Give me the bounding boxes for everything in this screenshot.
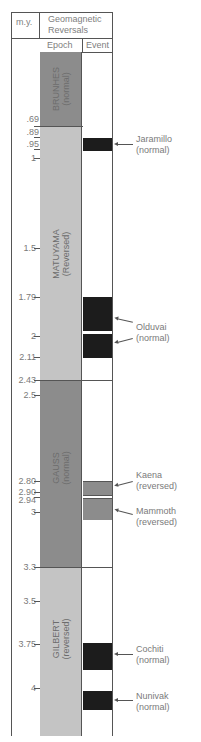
event-label-mammoth: Mammoth(reversed) (136, 506, 177, 528)
arrow-icon (117, 338, 133, 343)
epoch-name: BRUNHES (51, 67, 61, 111)
event-olduvai-upper (83, 297, 112, 331)
tick-mark (34, 248, 40, 249)
arrow-icon (117, 318, 133, 322)
arrow-icon (117, 481, 133, 486)
epoch-polarity: (reversed) (61, 618, 71, 659)
tick-mark (34, 158, 40, 159)
tick-mark (34, 126, 40, 127)
tick-label: .69 (26, 114, 39, 124)
arrow-icon (117, 700, 133, 701)
epoch-name: MATUYAMA (51, 229, 61, 279)
epoch-column-header: Epoch (47, 40, 73, 51)
tick-mark (34, 481, 40, 482)
tick-mark (34, 644, 40, 645)
my-column-divider-header (39, 12, 40, 39)
arrow-icon (117, 144, 133, 145)
epoch-name: GILBERT (51, 619, 61, 657)
epoch-gauss: GAUSS(normal) (40, 381, 82, 567)
tick-mark (34, 137, 40, 138)
event-column-header: Event (86, 40, 109, 51)
epoch-name: GAUSS (51, 453, 61, 485)
header-divider (11, 38, 113, 39)
event-label-olduvai: Olduvai(normal) (136, 322, 170, 344)
event-cochiti (83, 643, 112, 670)
epoch-matuyama: MATUYAMA(Reversed) (40, 127, 82, 380)
tick-mark (34, 149, 40, 150)
event-label-kaena: Kaena(reversed) (136, 470, 177, 492)
tick-mark (34, 567, 40, 568)
event-mammoth (83, 498, 112, 520)
epoch-polarity: (normal) (61, 72, 71, 106)
my-column-header: m.y. (16, 17, 32, 28)
title-line2: Reversals (48, 25, 88, 36)
epoch-polarity: (normal) (61, 452, 71, 486)
tick-mark (34, 357, 40, 358)
event-label-cochiti: Cochiti(normal) (136, 644, 170, 666)
epoch-gilbert: GILBERT(reversed) (40, 568, 82, 736)
tick-mark (34, 512, 40, 513)
event-nunivak (83, 691, 112, 710)
epoch-polarity: (Reversed) (61, 231, 71, 276)
tick-label: .89 (26, 127, 39, 137)
tick-mark (34, 492, 40, 493)
arrow-icon (117, 510, 133, 515)
epoch-event-divider-header (82, 38, 83, 52)
tick-mark (34, 297, 40, 298)
tick-mark (34, 688, 40, 689)
tick-mark (34, 497, 40, 498)
epoch-brunhes: BRUNHES(normal) (40, 52, 82, 126)
event-kaena (83, 481, 112, 496)
tick-mark (34, 336, 40, 337)
event-jaramillo (83, 138, 112, 151)
title-line1: Geomagnetic (48, 14, 102, 25)
event-olduvai-lower (83, 334, 112, 358)
tick-mark (34, 395, 40, 396)
arrow-icon (117, 654, 133, 655)
tick-mark (34, 601, 40, 602)
tick-mark (34, 380, 40, 381)
event-label-nunivak: Nunivak(normal) (136, 691, 170, 713)
event-label-jaramillo: Jaramillo(normal) (136, 134, 172, 156)
tick-label: .95 (26, 139, 39, 149)
